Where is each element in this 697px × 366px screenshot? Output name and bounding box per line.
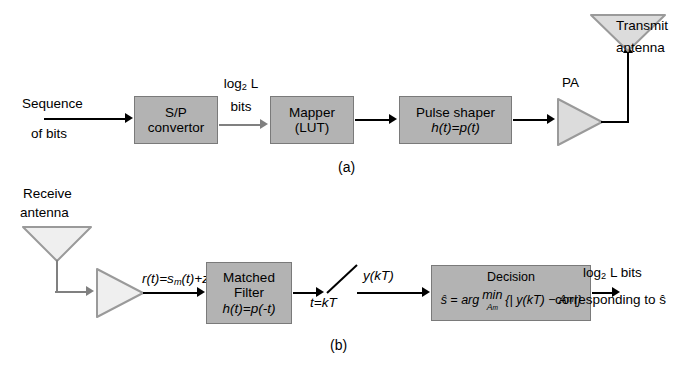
block-mapper-line1: Mapper (289, 105, 335, 120)
rx-output-L: L bits (610, 265, 642, 280)
rx-lna-arrowhead (86, 286, 94, 296)
tx-shaper-to-pa-line (513, 119, 548, 121)
rx-output-label-line1: log2 L bits (583, 265, 642, 282)
tx-pa-to-antenna-vline (627, 52, 629, 122)
tx-sp-to-mapper-arrowhead (260, 119, 268, 129)
block-mapper-line2: (LUT) (295, 120, 330, 135)
sampler-switch-icon (325, 262, 361, 296)
tx-log2l-L: L (251, 76, 259, 91)
block-decision-title: Decision (487, 270, 535, 284)
rx-output-log-sub: 2 (601, 271, 606, 281)
rx-sampler-to-decision-line (357, 292, 424, 294)
block-sp-line1: S/P (165, 105, 187, 120)
rx-lna-to-mf-line (143, 292, 198, 294)
block-pulse-shaper: Pulse shaper h(t)=p(t) (399, 96, 512, 144)
decision-formula-minsub: Am (487, 303, 498, 312)
tx-input-label-line2: of bits (31, 126, 67, 142)
decision-minsub-m: m (492, 304, 497, 311)
rx-sample-label: y(kT) (363, 268, 394, 284)
tx-input-arrow-line (44, 118, 126, 120)
rx-output-label-line2: corresponding to ŝ (555, 292, 666, 308)
figure-canvas: Sequence of bits S/P convertor log2 L bi… (0, 0, 697, 366)
tx-bits-label: bits (206, 99, 276, 115)
receive-antenna-icon (21, 224, 93, 264)
pa-label: PA (562, 75, 579, 91)
receive-antenna-label-line1: Receive (23, 186, 72, 202)
power-amplifier-triangle (556, 97, 604, 147)
rx-sample-time-label: t=kT (310, 295, 337, 311)
rx-lna-to-mf-arrowhead (197, 287, 205, 297)
rx-antenna-feed-hline (55, 291, 87, 293)
block-mf-line1: Matched (223, 270, 275, 285)
block-shaper-line2: h(t)=p(t) (431, 120, 479, 135)
tx-sp-to-mapper-line (219, 124, 261, 126)
rx-signal-label-head: r(t)=s (142, 271, 174, 286)
transmit-antenna-label-line1: Transmit (616, 18, 668, 34)
rx-signal-label-sub: m (174, 277, 182, 287)
tx-pa-to-antenna-hline (601, 121, 629, 123)
block-sp-line2: convertor (148, 120, 204, 135)
caption-b: (b) (330, 337, 347, 354)
tx-log2l-label: log2 L (206, 76, 276, 93)
rx-output-log: log (583, 265, 601, 280)
tx-input-arrowhead (125, 113, 133, 123)
tx-mapper-to-shaper-line (355, 119, 390, 121)
block-mapper: Mapper (LUT) (270, 96, 354, 144)
decision-formula-lhs: ŝ = arg (441, 293, 480, 307)
tx-input-label-line1: Sequence (22, 96, 83, 112)
tx-shaper-to-pa-arrowhead (547, 114, 555, 124)
tx-log2l-log: log (224, 76, 242, 91)
caption-a: (a) (338, 159, 355, 176)
transmit-antenna-label-line2: antenna (616, 40, 665, 56)
rx-antenna-feed-vline (56, 260, 58, 292)
block-matched-filter: Matched Filter h(t)=p(-t) (206, 262, 292, 324)
block-mf-line3: h(t)=p(-t) (223, 301, 276, 316)
receive-antenna-label-line2: antenna (20, 205, 69, 221)
tx-mapper-to-shaper-arrowhead (389, 114, 397, 124)
tx-log2l-sub: 2 (242, 82, 247, 92)
decision-formula-min: min (482, 289, 502, 302)
receive-amplifier-triangle (95, 267, 145, 319)
block-shaper-line1: Pulse shaper (416, 105, 495, 120)
block-mf-line2: Filter (234, 285, 264, 300)
rx-decision-arrowhead (422, 287, 430, 297)
